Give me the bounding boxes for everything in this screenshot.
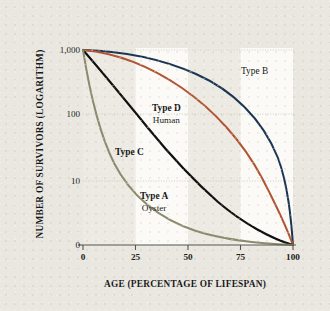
curve-label-type-c: Type C <box>115 147 144 159</box>
curve-label-type-a: Type A Oyster <box>140 191 168 214</box>
curve-label-type-d-name: Type D <box>152 103 181 115</box>
x-axis-title: AGE (PERCENTAGE OF LIFESPAN) <box>60 279 310 289</box>
x-axis-ticks <box>83 245 293 250</box>
curve-label-type-d: Type D Human <box>152 103 181 126</box>
band-50-75 <box>188 48 241 245</box>
y-axis-title: NUMBER OF SURVIVORS (LOGARITHM) <box>27 24 53 264</box>
x-tick-label-0: 0 <box>63 252 103 262</box>
x-tick-label-75: 75 <box>221 252 261 262</box>
curve-label-type-b: Type B <box>241 66 268 78</box>
curve-label-type-b-name: Type B <box>241 66 268 78</box>
survivorship-curve-chart: 1,000 100 10 0 0 25 50 75 100 NUMBER OF … <box>0 0 330 311</box>
curve-label-type-a-name: Type A <box>140 191 168 203</box>
x-tick-label-100: 100 <box>273 252 313 262</box>
curve-label-type-d-species: Human <box>152 115 181 127</box>
band-75-100 <box>241 48 294 245</box>
x-tick-label-25: 25 <box>116 252 156 262</box>
curve-label-type-a-species: Oyster <box>140 203 168 215</box>
x-tick-label-50: 50 <box>168 252 208 262</box>
curve-label-type-c-name: Type C <box>115 147 144 159</box>
